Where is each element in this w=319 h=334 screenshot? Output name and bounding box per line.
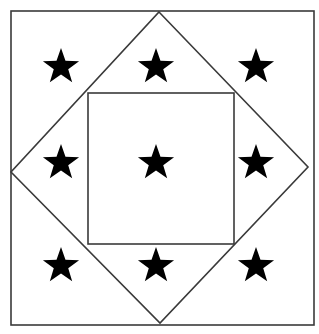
star-quilt-diagram <box>0 0 319 334</box>
star-icon <box>238 247 274 281</box>
star-icon <box>43 144 79 178</box>
star-icon <box>43 48 79 82</box>
star-icon <box>138 48 174 82</box>
star-icon <box>138 144 174 178</box>
stars-group <box>43 48 274 281</box>
star-icon <box>238 144 274 178</box>
star-icon <box>238 48 274 82</box>
star-icon <box>138 247 174 281</box>
star-icon <box>43 247 79 281</box>
